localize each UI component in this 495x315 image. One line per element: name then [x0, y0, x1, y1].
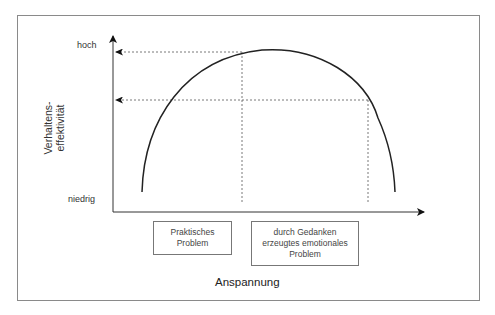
- y-axis-label-line1: Verhaltens-: [42, 78, 54, 178]
- x-axis-label: Anspannung: [215, 276, 280, 288]
- emotional-problem-line3: Problem: [252, 249, 358, 260]
- practical-problem-box: Praktisches Problem: [153, 221, 232, 255]
- plot-area: [0, 0, 495, 315]
- y-tick-high: hoch: [77, 40, 97, 50]
- emotional-problem-box: durch Gedanken erzeugtes emotionales Pro…: [251, 221, 359, 266]
- performance-curve: [142, 50, 395, 192]
- y-axis-label-line2: effektivität: [54, 78, 66, 178]
- y-axis-label: Verhaltens- effektivität: [42, 78, 66, 178]
- emotional-problem-line1: durch Gedanken: [252, 227, 358, 238]
- emotional-problem-line2: erzeugtes emotionales: [252, 238, 358, 249]
- y-tick-low: niedrig: [68, 194, 95, 204]
- practical-problem-line2: Problem: [154, 238, 231, 249]
- practical-problem-line1: Praktisches: [154, 227, 231, 238]
